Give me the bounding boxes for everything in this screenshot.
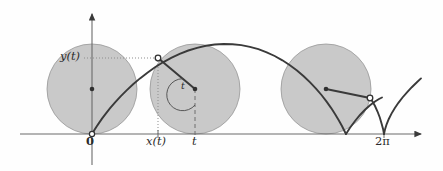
label-x-of-t: x(t)	[146, 136, 166, 148]
trace-point-t-late	[367, 95, 373, 101]
label-y-of-t: y(t)	[60, 51, 80, 63]
label-origin: 0	[86, 136, 94, 148]
cycloid-figure: y(t) 0 x(t) t t 2π	[0, 0, 443, 171]
center-dot-t0	[90, 87, 95, 92]
label-two-pi: 2π	[375, 136, 390, 148]
rolling-disks-group	[47, 44, 371, 134]
label-angle-t: t	[181, 81, 185, 91]
cycloid-curve-next-arch	[384, 78, 421, 134]
center-dot-t-late	[324, 87, 329, 92]
label-t-axis: t	[192, 136, 197, 148]
trace-point-t-generic	[155, 55, 161, 61]
center-dot-t-generic	[193, 87, 198, 92]
